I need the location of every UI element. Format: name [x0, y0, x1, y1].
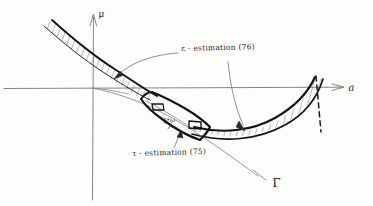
axis-group [4, 14, 344, 200]
sketch-figure: ε - estimation (76) τ - estimation (75) … [0, 0, 373, 206]
horizontal-axis-label: a [348, 82, 355, 93]
epsilon-left-leader-line [116, 53, 178, 77]
gamma-curve-upper-tail [92, 88, 128, 94]
sketch-canvas [0, 0, 373, 206]
interior-point-label: ξ*ω [163, 116, 176, 124]
right-band-upper-curve [194, 77, 315, 131]
vertical-axis-label: μ [98, 9, 105, 19]
horizontal-axis [4, 87, 341, 88]
central-parallelogram [141, 92, 210, 140]
left-band-lower-curve [52, 20, 157, 96]
vertical-axis [93, 17, 94, 200]
gamma-curve-label: Γ [272, 176, 281, 190]
leader-lines [114, 53, 266, 180]
parallelogram-outline [141, 92, 210, 140]
epsilon-right-leader-line [228, 62, 243, 125]
gamma-leader-line [253, 170, 266, 180]
right-hatched-band [180, 60, 340, 155]
epsilon-estimation-label: ε - estimation (76) [181, 42, 255, 53]
right-band-hatch-fill [180, 60, 340, 155]
